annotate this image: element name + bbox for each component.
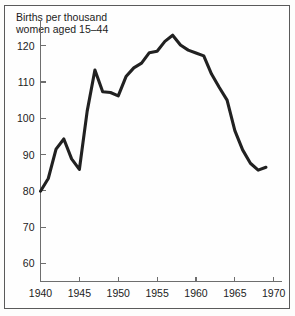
chart-figure: Births per thousand women aged 15–44 607… bbox=[0, 0, 295, 316]
x-axis-tick-group: 1940194519501955196019651970 bbox=[29, 277, 286, 299]
x-tick-label: 1970 bbox=[262, 287, 286, 299]
x-tick-label: 1950 bbox=[107, 287, 131, 299]
y-tick-label: 120 bbox=[17, 40, 35, 52]
y-tick-label: 60 bbox=[23, 257, 35, 269]
birth-rate-series-line bbox=[41, 35, 266, 191]
line-chart-plot: 60708090100110120 1940194519501955196019… bbox=[0, 0, 295, 316]
x-tick-label: 1955 bbox=[145, 287, 169, 299]
y-tick-label: 70 bbox=[23, 221, 35, 233]
y-axis-tick-group: 60708090100110120 bbox=[17, 40, 46, 270]
y-tick-label: 90 bbox=[23, 149, 35, 161]
y-tick-label: 80 bbox=[23, 185, 35, 197]
x-tick-label: 1965 bbox=[223, 287, 247, 299]
x-tick-label: 1960 bbox=[184, 287, 208, 299]
x-tick-label: 1945 bbox=[68, 287, 92, 299]
y-tick-label: 110 bbox=[18, 76, 35, 88]
y-tick-label: 100 bbox=[17, 112, 35, 124]
x-tick-label: 1940 bbox=[29, 287, 53, 299]
